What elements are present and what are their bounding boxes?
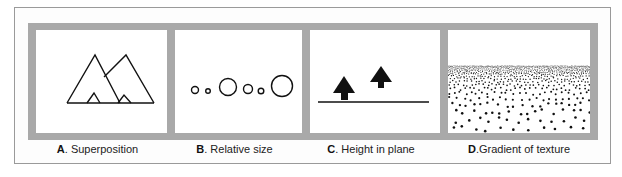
texture-gradient-illustration: [448, 30, 590, 133]
caption-d-text: Gradient of texture: [479, 143, 570, 155]
panel-gradient-of-texture: [448, 30, 590, 133]
caption-a-text: Superposition: [71, 143, 138, 155]
figure-frame: [28, 23, 598, 140]
panel-height-in-plane: [310, 30, 440, 133]
caption-c: C. Height in plane: [302, 143, 440, 155]
caption-d: D.Gradient of texture: [440, 143, 598, 155]
overlapping-triangles-illustration: [36, 30, 167, 133]
caption-b-text: Relative size: [210, 143, 272, 155]
caption-d-letter: D: [468, 143, 476, 155]
panel-relative-size: [175, 30, 302, 133]
caption-c-text: Height in plane: [341, 143, 414, 155]
caption-a: A. Superposition: [28, 143, 167, 155]
caption-b: B. Relative size: [167, 143, 302, 155]
trees-illustration: [310, 30, 440, 133]
caption-a-letter: A: [57, 143, 65, 155]
panel-superposition: [36, 30, 167, 133]
circles-illustration: [175, 30, 302, 133]
